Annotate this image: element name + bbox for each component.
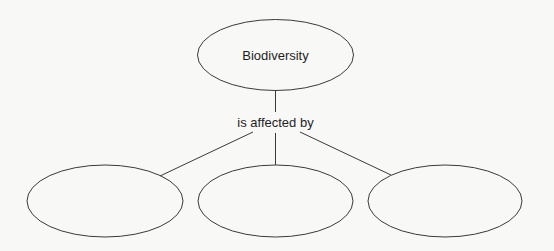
child-ellipse-left	[27, 165, 183, 237]
link-label: is affected by	[237, 115, 314, 130]
child-ellipse-middle	[198, 165, 353, 237]
root-label: Biodiversity	[242, 48, 309, 63]
connector-label-to-right	[300, 132, 391, 175]
concept-map-svg: Biodiversity is affected by	[0, 0, 554, 251]
root-node: Biodiversity	[198, 20, 354, 91]
child-node-left	[27, 165, 183, 237]
concept-map: Biodiversity is affected by	[0, 0, 554, 251]
child-node-right	[368, 165, 522, 237]
child-ellipse-right	[368, 165, 522, 237]
child-node-middle	[198, 165, 353, 237]
